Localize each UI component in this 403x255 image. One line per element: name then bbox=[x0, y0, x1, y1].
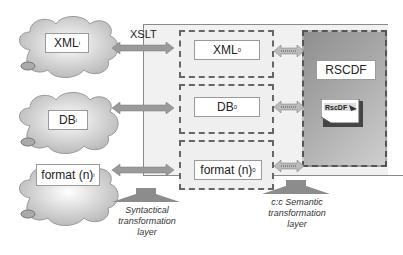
caption-line: layer bbox=[108, 227, 186, 238]
intermediate-format: format (n)0 bbox=[194, 160, 262, 180]
dotted-arrow-format-icon bbox=[274, 160, 304, 172]
intermediate-db-superscript: 0 bbox=[234, 104, 237, 110]
intermediate-xml-superscript: 0 bbox=[238, 47, 241, 53]
source-xml-subscript: i bbox=[79, 40, 80, 46]
intermediate-xml: XML0 bbox=[194, 40, 260, 60]
double-arrow-format-icon bbox=[112, 164, 174, 176]
source-db-label: DB bbox=[59, 113, 76, 127]
intermediate-db-label: DB bbox=[217, 100, 234, 114]
source-xml: XMLi bbox=[45, 33, 89, 53]
intermediate-format-subscript: 0 bbox=[252, 167, 255, 173]
double-arrow-db-icon bbox=[112, 102, 174, 114]
caption-line: transformation bbox=[258, 208, 336, 219]
rscdf-document-icon: RscDF bbox=[321, 99, 365, 129]
syntactical-layer-caption: Syntactical transformation layer bbox=[108, 205, 186, 238]
rscdf-logo-text: RscDF bbox=[325, 104, 348, 111]
dotted-arrow-xml-icon bbox=[274, 45, 304, 57]
source-xml-label: XML bbox=[54, 36, 79, 50]
dotted-arrow-db-icon bbox=[274, 101, 304, 113]
source-format-subscript: i bbox=[93, 172, 94, 178]
caption-line: c:c Semantic bbox=[258, 197, 336, 208]
intermediate-db: DB0 bbox=[194, 97, 260, 117]
caption-line: transformation bbox=[108, 216, 186, 227]
caption-line: layer bbox=[258, 219, 336, 230]
source-format-label: format (n) bbox=[41, 168, 93, 182]
semantic-up-arrow-icon bbox=[262, 180, 330, 194]
source-format: format (n)i bbox=[36, 164, 100, 186]
syntactical-up-arrow-icon bbox=[112, 188, 180, 202]
rscdf-box: RSCDF bbox=[316, 60, 376, 80]
caption-line: Syntactical bbox=[108, 205, 186, 216]
source-db-subscript: i bbox=[76, 117, 77, 123]
rscdf-label: RSCDF bbox=[325, 63, 366, 77]
intermediate-format-label: format (n) bbox=[200, 163, 252, 177]
double-arrow-xml-icon bbox=[112, 42, 174, 54]
semantic-layer-caption: c:c Semantic transformation layer bbox=[258, 197, 336, 230]
xslt-label: XSLT bbox=[130, 28, 157, 40]
intermediate-xml-label: XML bbox=[213, 43, 238, 57]
source-db: DBi bbox=[48, 110, 88, 130]
